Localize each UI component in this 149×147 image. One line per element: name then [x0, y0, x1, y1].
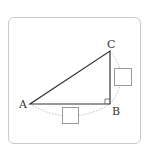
right-angle-marker	[105, 99, 110, 104]
answer-box-bc[interactable]	[114, 68, 132, 86]
answer-box-ab[interactable]	[62, 107, 79, 124]
vertex-label-a: A	[19, 99, 27, 110]
vertex-label-c: C	[107, 39, 115, 50]
triangle-abc	[30, 51, 110, 104]
vertex-label-b: B	[112, 106, 120, 117]
